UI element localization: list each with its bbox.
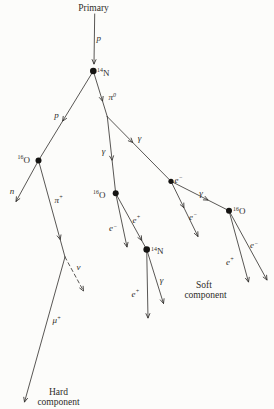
gamma-left-label-text: γ xyxy=(102,146,106,156)
n14-top-label-text: N xyxy=(103,68,110,78)
electron-right-label-text: − xyxy=(254,240,258,246)
gamma-n14-label: γ xyxy=(160,275,164,285)
neutrino-label-text: ν xyxy=(77,262,81,272)
hard-component-line2-text: component xyxy=(37,397,80,407)
electron-dot-label-text: − xyxy=(179,174,183,180)
neutron-label: n xyxy=(10,186,15,196)
proton-top-label: p xyxy=(96,33,102,43)
gamma-upper-right-label: γ xyxy=(138,133,142,143)
gamma-n14-label-text: γ xyxy=(160,275,164,285)
o16-right-vertex-dot xyxy=(226,208,232,214)
soft-component-line2-text: component xyxy=(184,290,227,300)
proton-left-label-text: p xyxy=(53,110,59,120)
soft-component-line1: Soft xyxy=(196,280,212,290)
hard-component-line1-text: Hard xyxy=(49,387,68,397)
muon-label-text: + xyxy=(57,315,61,321)
hard-component-line1: Hard xyxy=(49,387,68,397)
n14-bottom-label-text: N xyxy=(157,246,164,256)
positron-center-label-text: + xyxy=(137,214,141,220)
n14-top-vertex-dot xyxy=(90,68,97,75)
hard-component-line2: component xyxy=(37,397,80,407)
electron-cascade-label-text: − xyxy=(193,211,197,217)
gamma-mid-label-text: γ xyxy=(199,188,203,198)
pion-plus-label-text: + xyxy=(59,194,63,200)
o16-right-label-text: O xyxy=(239,206,246,216)
proton-top-label-text: p xyxy=(96,33,102,43)
n14-bottom-vertex-dot xyxy=(143,246,150,253)
primary-label: Primary xyxy=(78,3,109,13)
o16-center-vertex-dot xyxy=(113,190,119,196)
o16-center-label-text: O xyxy=(99,190,106,200)
gamma-mid-label: γ xyxy=(199,188,203,198)
primary-label-text: Primary xyxy=(78,3,109,13)
neutrino-label: ν xyxy=(77,262,81,272)
proton-left-label: p xyxy=(53,110,59,120)
o16-left-vertex-dot xyxy=(36,158,42,164)
neutron-label-text: n xyxy=(10,186,15,196)
electron-vertex-dot xyxy=(168,179,173,184)
cosmic-ray-shower-figure: Primaryp14Npπ016Onπ+νμ+γγ16Oe−e+14Ne+γe−… xyxy=(0,0,274,409)
electron-center-label-text: − xyxy=(113,223,117,229)
shower-diagram-canvas: Primaryp14Npπ016Onπ+νμ+γγ16Oe−e+14Ne+γe−… xyxy=(0,0,274,409)
soft-component-line2: component xyxy=(184,290,227,300)
paper-background xyxy=(0,0,274,409)
positron-n14-label-text: + xyxy=(136,288,140,294)
soft-component-line1-text: Soft xyxy=(196,280,212,290)
gamma-left-label: γ xyxy=(102,146,106,156)
positron-right-label-text: + xyxy=(230,256,234,262)
o16-left-label-text: O xyxy=(23,155,30,165)
pion0-label-text: 0 xyxy=(113,92,116,98)
gamma-upper-right-label-text: γ xyxy=(138,133,142,143)
